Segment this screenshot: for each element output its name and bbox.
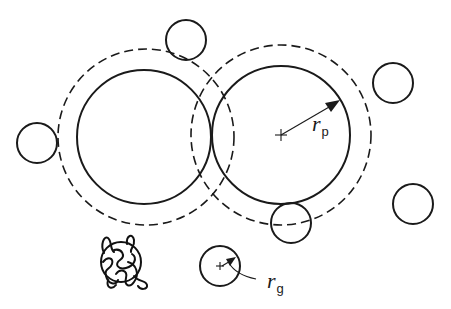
rp-label: rp bbox=[312, 111, 328, 137]
rp-label-main: r bbox=[312, 111, 321, 136]
small-particle-lower-right bbox=[393, 184, 433, 224]
small-particle-left bbox=[17, 123, 57, 163]
left-depletion-zone bbox=[58, 49, 234, 225]
depletion-diagram bbox=[0, 0, 451, 309]
rp-label-sub: p bbox=[322, 124, 329, 139]
rg-label-sub: g bbox=[277, 281, 284, 296]
rp-radius-arrow bbox=[281, 100, 340, 135]
small-particle-upper-right bbox=[373, 63, 413, 103]
polymer-coil-icon bbox=[101, 236, 147, 289]
rg-label-main: r bbox=[267, 268, 276, 293]
rg-label: rg bbox=[267, 268, 283, 294]
small-particle-bottom-overlap bbox=[271, 203, 311, 243]
small-particle-top bbox=[166, 20, 206, 60]
